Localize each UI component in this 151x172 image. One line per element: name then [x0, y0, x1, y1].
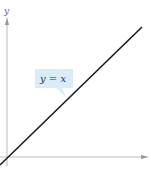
y-axis-arrow-icon [5, 17, 9, 25]
callout-label: y = x [39, 73, 66, 84]
y-axis-label: y [3, 6, 10, 16]
line-y-equals-x [0, 27, 142, 165]
graph: y y = x [0, 0, 151, 172]
callout-pointer [56, 88, 66, 97]
x-axis-arrow-icon [141, 155, 149, 159]
